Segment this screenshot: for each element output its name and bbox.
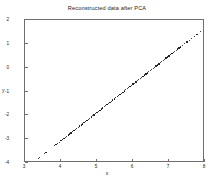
x-tick-label: 5 [95,164,98,169]
data-point [85,121,86,122]
x-tick-mark [132,159,133,162]
data-point [101,108,102,109]
data-point [91,116,92,117]
y-tick-mark [25,138,28,139]
data-point [89,118,90,119]
x-tick-mark [96,159,97,162]
data-point [96,112,97,113]
data-point [95,113,96,114]
data-point [60,140,61,141]
y-tick-label: 1 [6,40,9,45]
data-point [150,70,151,71]
data-point [83,122,84,123]
x-tick-label: 7 [167,164,170,169]
scatter-series-reconstructed [25,20,203,161]
data-point [140,78,141,79]
data-point [128,87,129,88]
data-point [168,55,169,56]
data-point [70,132,71,133]
data-point [157,64,158,65]
x-tick-label: 4 [59,164,62,169]
data-point [191,38,192,39]
data-point [160,62,161,63]
x-axis-label: x [0,170,214,176]
data-point [117,96,118,97]
y-tick-mark [25,67,28,68]
y-tick-mark [25,114,28,115]
y-tick-mark [25,91,28,92]
plot-area [24,19,204,162]
data-point [76,128,77,129]
data-point [57,143,58,144]
data-point [122,92,123,93]
data-point [171,53,172,54]
data-point [141,77,142,78]
data-point [118,95,119,96]
data-point [163,60,164,61]
data-point [111,101,112,102]
data-point [78,127,79,128]
data-point [161,61,162,62]
data-point [174,51,175,52]
y-tick-label: 2 [6,17,9,22]
data-point [131,85,132,86]
x-tick-mark [60,159,61,162]
data-point [200,31,201,32]
x-tick-label: 6 [131,164,134,169]
data-point [88,119,89,120]
data-point [194,36,195,37]
data-point [112,99,113,100]
x-tick-label: 3 [23,164,26,169]
data-point [165,57,166,58]
data-point [196,34,197,35]
data-point [148,71,149,72]
data-point [135,81,136,82]
data-point [68,134,69,135]
data-point [114,98,115,99]
y-tick-label: 0 [6,64,9,69]
data-point [125,89,126,90]
data-point [39,157,40,158]
data-point [104,106,105,107]
x-tick-label: 8 [203,164,206,169]
data-point [177,48,178,49]
data-point [134,83,135,84]
data-point [184,43,185,44]
data-point [73,130,74,131]
data-point [164,59,165,60]
chart-title: Reconstructed data after PCA [0,5,214,11]
data-point [153,68,154,69]
data-point [99,110,100,111]
chart-figure: Reconstructed data after PCA 345678-4-3-… [0,0,214,178]
data-point [82,123,83,124]
data-point [127,88,128,89]
data-point [189,40,190,41]
data-point [180,46,181,47]
data-point [142,76,143,77]
y-tick-mark [25,162,28,163]
data-point [106,104,107,105]
data-point [93,114,94,115]
data-point [62,139,63,140]
data-point [154,67,155,68]
data-point [54,145,55,146]
y-axis-label: y [2,87,5,93]
data-point [108,103,109,104]
data-point [129,86,130,87]
data-point [65,137,66,138]
data-point [124,90,125,91]
data-point [45,152,46,153]
y-tick-label: -1 [5,88,9,93]
data-point [158,63,159,64]
x-tick-mark [168,159,169,162]
data-point [119,94,120,95]
data-point [176,50,177,51]
data-point [138,79,139,80]
data-point [115,97,116,98]
y-tick-label: -4 [5,160,9,165]
data-point [137,80,138,81]
data-point [170,54,171,55]
data-point [63,138,64,139]
data-point [66,136,67,137]
data-point [79,125,80,126]
